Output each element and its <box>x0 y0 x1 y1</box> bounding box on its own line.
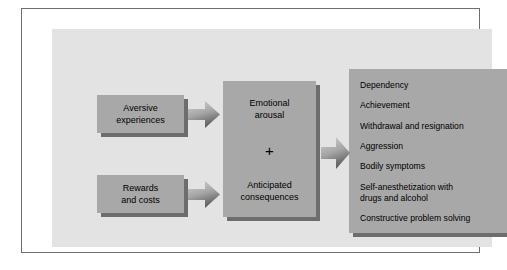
outcome-item: Dependency <box>360 80 507 91</box>
outcome-item: Aggression <box>360 141 507 152</box>
center-top-line-1: Emotional <box>227 97 312 109</box>
outcome-item: Achievement <box>360 100 507 111</box>
outcome-item: Self-anesthetization with drugs and alco… <box>360 182 507 204</box>
plus-operator-symbol: + <box>227 143 312 158</box>
center-bottom-line-1: Anticipated <box>227 179 312 191</box>
outcome-item: Bodily symptoms <box>360 161 507 172</box>
diagram-panel: Aversive experiences Rewards and costs E… <box>52 29 492 247</box>
box-outcomes: Dependency Achievement Withdrawal and re… <box>349 69 507 233</box>
box-rewards-line-2: and costs <box>121 194 160 206</box>
outcome-item: Withdrawal and resignation <box>360 121 507 132</box>
arrow-right-icon <box>321 135 351 175</box>
arrow-right-icon <box>188 179 221 214</box>
arrow-right-icon <box>188 99 221 134</box>
box-aversive-line-1: Aversive <box>123 102 157 114</box>
box-aversive-line-2: experiences <box>116 114 165 126</box>
box-rewards-line-1: Rewards <box>123 182 159 194</box>
figure-frame: Aversive experiences Rewards and costs E… <box>21 8 480 253</box>
center-top-segment: Emotional arousal <box>227 97 312 121</box>
center-bottom-line-2: consequences <box>227 191 312 203</box>
center-bottom-segment: Anticipated consequences <box>227 179 312 203</box>
box-aversive-experiences: Aversive experiences <box>97 95 184 133</box>
box-emotional-arousal-anticipated-consequences: Emotional arousal + Anticipated conseque… <box>223 81 316 217</box>
center-top-line-2: arousal <box>227 109 312 121</box>
box-rewards-and-costs: Rewards and costs <box>97 175 184 213</box>
outcome-item: Constructive problem solving <box>360 213 507 224</box>
